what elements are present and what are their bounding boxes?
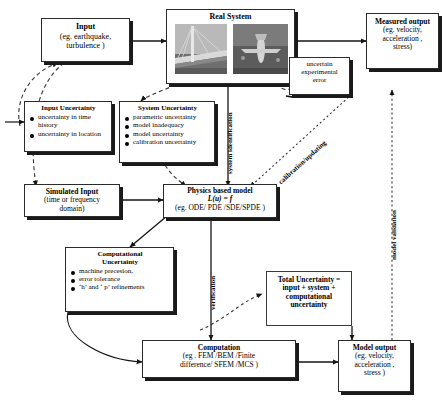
edge-calibration-updating (250, 94, 352, 187)
edge-computational-uncertainty-to-computation (67, 312, 142, 362)
node-computational-uncertainty-bullets: machine precesion, error tolerance ‘h’ a… (70, 267, 170, 292)
node-real-system[interactable]: Real System (166, 9, 295, 84)
edge-physics-model-to-computational-uncertainty (130, 216, 167, 247)
list-item: calibration uncertainty (124, 138, 211, 146)
edge-label-verification: verification (209, 276, 217, 310)
node-experimental-error-line3: error (290, 77, 349, 85)
node-input-uncertainty-title: Input Uncertainty (29, 105, 108, 113)
edge-real-system-to-system-uncertainty (141, 82, 182, 101)
node-experimental-error[interactable]: uncertain experimental error (289, 57, 350, 95)
node-measured-output[interactable]: Measured output (eg. velocity, accelerat… (366, 13, 439, 69)
edge-label-system-identification: system identification (226, 112, 234, 174)
node-simulated-input-sub2: domain) (25, 205, 119, 214)
node-input[interactable]: Input (eg. earthquake, turbulence ) (41, 18, 130, 62)
list-item: machine precesion, (70, 267, 170, 275)
node-computational-uncertainty-title2: Uncertainty (70, 259, 170, 267)
suspension-bridge-photo (175, 24, 227, 74)
list-item: parametric uncertainty (124, 113, 211, 121)
list-item: model inadequacy (124, 121, 211, 129)
node-system-uncertainty[interactable]: System Uncertainty parametric uncertaint… (119, 101, 215, 163)
node-model-output-sub3: stress ) (339, 369, 410, 378)
list-item: uncertainty in time history (29, 113, 108, 130)
node-input-sub1: (eg. earthquake, (42, 32, 129, 41)
aircraft-photo (233, 24, 288, 74)
node-system-uncertainty-title: System Uncertainty (124, 105, 211, 113)
node-computation-sub2: difference/ SFEM /MCS ) (143, 361, 295, 370)
diagram-canvas: Input (eg. earthquake, turbulence ) Real… (0, 0, 447, 400)
edge-system-uncertainty-to-physics-model (165, 165, 186, 186)
node-measured-output-sub3: stress) (367, 43, 438, 52)
list-item: uncertainty in location (29, 130, 108, 138)
node-total-uncertainty-line4: uncertainty (267, 301, 351, 309)
node-input-sub2: turbulence ) (42, 41, 129, 50)
node-input-title: Input (42, 23, 129, 32)
list-item: ‘h’ and ‘ p’ refinements (70, 283, 170, 291)
node-simulated-input[interactable]: Simulated Input (time or frequency domai… (24, 184, 120, 217)
edge-label-model-validation: model validation (390, 210, 398, 260)
node-physics-based-model[interactable]: Physics based model L(u) = f (eg. ODE/ P… (163, 184, 277, 218)
node-model-output[interactable]: Model output (eg. velocity, acceleration… (338, 340, 411, 392)
node-input-uncertainty-bullets: uncertainty in time history uncertainty … (29, 113, 108, 138)
node-system-uncertainty-bullets: parametric uncertainty model inadequacy … (124, 113, 211, 147)
list-item: model uncertainty (124, 130, 211, 138)
list-item: error tolerance (70, 275, 170, 283)
node-computational-uncertainty[interactable]: Computational Uncertainty machine preces… (65, 247, 174, 312)
node-input-uncertainty[interactable]: Input Uncertainty uncertainty in time hi… (24, 101, 112, 152)
node-computation[interactable]: Computation (eg . FEM /BEM /Finite diffe… (142, 340, 296, 378)
node-physics-based-model-sub: (eg. ODE/ PDE /SDE/SPDE ) (164, 204, 276, 213)
node-total-uncertainty[interactable]: Total Uncertainty = input + system + com… (266, 271, 352, 326)
node-real-system-title: Real System (167, 13, 294, 22)
